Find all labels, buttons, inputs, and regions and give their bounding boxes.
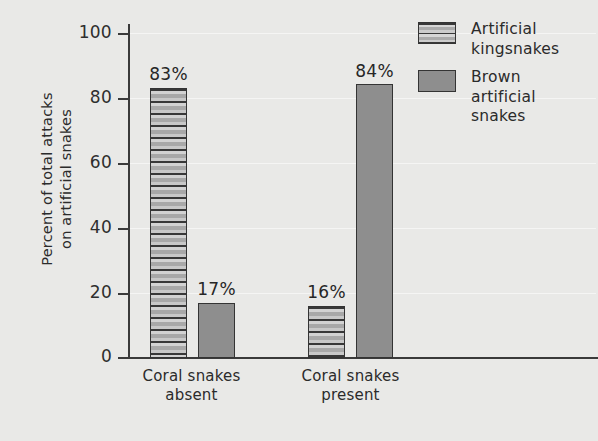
bar-brown-absent[interactable] xyxy=(198,303,235,358)
bar-value-kingsnakes-present: 16% xyxy=(300,282,353,302)
y-tick-label-100: 100 xyxy=(79,22,112,42)
bar-kingsnakes-present[interactable] xyxy=(308,306,345,358)
x-category-label-present: Coral snakes present xyxy=(284,367,417,405)
bar-kingsnakes-absent[interactable] xyxy=(150,88,187,358)
bar-value-brown-present: 84% xyxy=(348,61,401,81)
y-tick-mark-80 xyxy=(118,98,128,100)
y-tick-mark-60 xyxy=(118,163,128,165)
y-tick-label-0: 0 xyxy=(101,346,112,366)
y-tick-label-40: 40 xyxy=(90,217,112,237)
legend-swatch-solid-icon xyxy=(418,70,456,92)
legend-label-brown: Brown artificial snakes xyxy=(471,68,536,127)
legend-swatch-striped-icon xyxy=(418,22,456,44)
bar-value-brown-absent: 17% xyxy=(190,279,243,299)
legend-item-kingsnakes[interactable]: Artificial kingsnakes xyxy=(418,20,598,59)
legend-label-kingsnakes: Artificial kingsnakes xyxy=(471,20,559,59)
y-tick-mark-20 xyxy=(118,293,128,295)
legend-item-brown[interactable]: Brown artificial snakes xyxy=(418,68,598,127)
y-tick-label-60: 60 xyxy=(90,152,112,172)
y-tick-mark-40 xyxy=(118,228,128,230)
y-tick-label-80: 80 xyxy=(90,87,112,107)
legend: Artificial kingsnakes Brown artificial s… xyxy=(418,20,598,136)
chart-figure: Percent of total attacks on artificial s… xyxy=(0,0,598,441)
bar-value-kingsnakes-absent: 83% xyxy=(142,64,195,84)
y-tick-mark-100 xyxy=(118,33,128,35)
bar-brown-present[interactable] xyxy=(356,84,393,358)
y-tick-mark-0 xyxy=(118,357,128,359)
x-category-label-absent: Coral snakes absent xyxy=(125,367,258,405)
y-tick-label-20: 20 xyxy=(90,282,112,302)
y-axis-title: Percent of total attacks on artificial s… xyxy=(38,29,76,329)
